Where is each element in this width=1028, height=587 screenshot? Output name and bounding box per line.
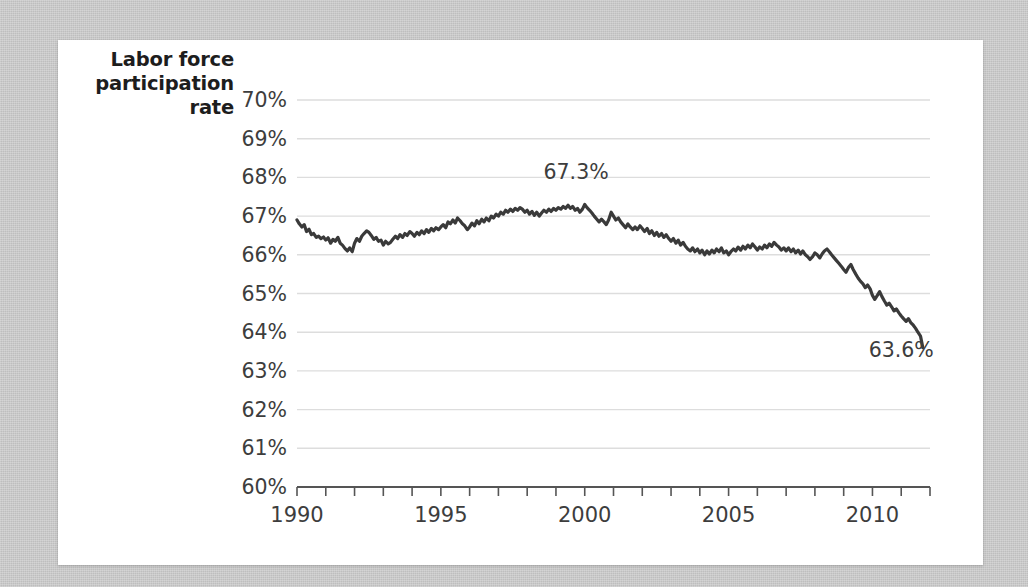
y-axis-tick-label: 70%	[241, 88, 287, 112]
x-axis-tick-labels: 19901995200020052010	[270, 503, 899, 527]
y-axis-tick-label: 69%	[241, 127, 287, 151]
y-axis-tick-labels: 70%69%68%67%66%65%64%63%62%61%60%	[241, 88, 287, 499]
x-axis-tick-label: 1990	[270, 503, 323, 527]
series-line-labor-force-participation-rate	[297, 204, 923, 347]
x-axis-tick-label: 2000	[558, 503, 611, 527]
x-axis-tick-label: 2005	[702, 503, 755, 527]
gridlines	[297, 100, 930, 448]
data-annotation-label: 67.3%	[544, 160, 609, 184]
y-axis-tick-label: 60%	[241, 475, 287, 499]
y-axis-tick-label: 68%	[241, 165, 287, 189]
data-annotation-label: 63.6%	[869, 338, 934, 362]
y-axis-tick-label: 61%	[241, 436, 287, 460]
y-axis-tick-label: 64%	[241, 320, 287, 344]
data-series-line	[297, 204, 923, 347]
chart-screenshot: Labor force participation rate 70%69%68%…	[0, 0, 1028, 587]
y-axis-tick-label: 65%	[241, 282, 287, 306]
y-axis-tick-label: 67%	[241, 204, 287, 228]
y-axis-tick-label: 63%	[241, 359, 287, 383]
y-axis-tick-label: 66%	[241, 243, 287, 267]
line-chart-plot: 70%69%68%67%66%65%64%63%62%61%60% 199019…	[0, 0, 1028, 587]
x-axis-tick-label: 1995	[414, 503, 467, 527]
y-axis-tick-label: 62%	[241, 398, 287, 422]
x-axis-ticks	[297, 487, 930, 496]
x-axis-tick-label: 2010	[846, 503, 899, 527]
